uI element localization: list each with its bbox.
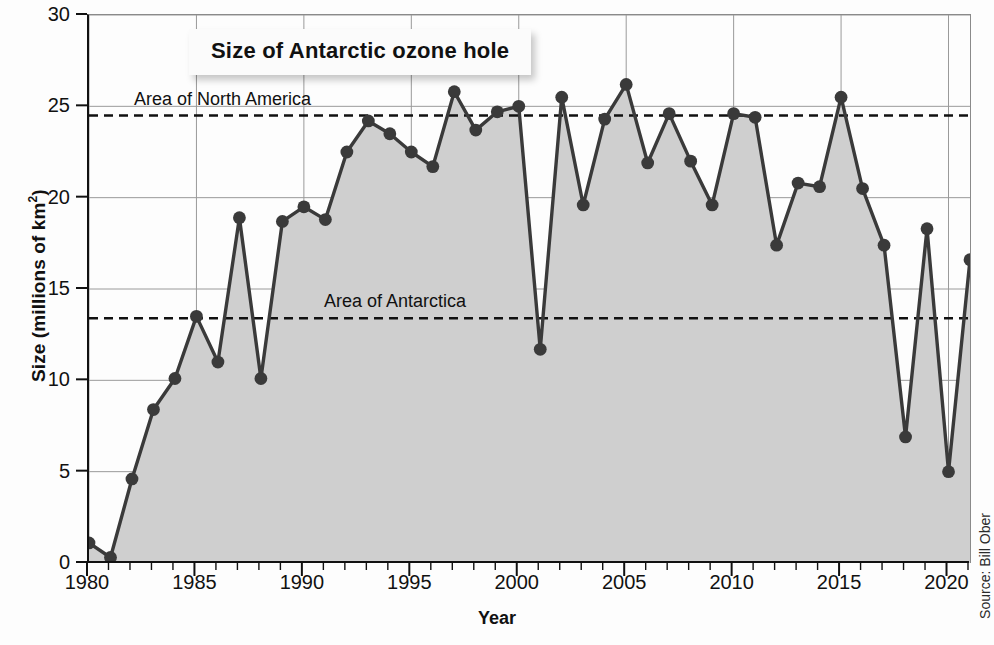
x-axis-tick-label: 1980: [52, 572, 122, 592]
data-point: [491, 105, 504, 118]
data-point: [297, 200, 310, 213]
data-point: [684, 155, 697, 168]
area-fill: [89, 84, 970, 563]
data-point: [663, 107, 676, 120]
y-axis-tick-label: 15: [24, 278, 70, 298]
data-point: [641, 157, 654, 170]
data-point: [835, 91, 848, 104]
chart-title: Size of Antarctic ozone hole: [189, 29, 531, 75]
data-point: [727, 107, 740, 120]
reference-line-label-north-america: Area of North America: [128, 89, 317, 110]
data-point: [147, 403, 160, 416]
data-point: [469, 124, 482, 137]
data-point: [921, 222, 934, 235]
y-axis-tick-label: 20: [24, 187, 70, 207]
source-credit: Source: Bill Ober: [977, 496, 993, 636]
data-point: [426, 160, 439, 173]
data-point: [169, 372, 182, 385]
data-point: [448, 85, 461, 98]
data-point: [964, 253, 970, 266]
data-point: [319, 213, 332, 226]
data-point: [126, 473, 139, 486]
x-axis-title: Year: [0, 608, 994, 629]
data-point: [813, 180, 826, 193]
data-point: [706, 199, 719, 212]
data-point: [749, 111, 762, 124]
y-axis-tick-label: 25: [24, 95, 70, 115]
reference-line-label-antarctica: Area of Antarctica: [318, 291, 472, 312]
data-point: [878, 239, 891, 252]
y-axis-tick-label: 0: [24, 552, 70, 572]
data-point: [620, 78, 633, 91]
data-point: [212, 356, 225, 369]
x-axis-tick-label: 2015: [804, 572, 874, 592]
data-point: [255, 372, 268, 385]
data-point: [233, 211, 246, 224]
data-point: [405, 146, 418, 159]
data-point: [577, 199, 590, 212]
x-axis-tick-label: 2000: [482, 572, 552, 592]
x-axis-tick-label: 2020: [912, 572, 982, 592]
data-point: [276, 215, 289, 228]
data-point: [598, 113, 611, 126]
chart-canvas: Size (millions of km2) 051015202530 1980…: [0, 0, 994, 645]
y-axis-tick-labels: 051015202530: [20, 0, 70, 600]
y-axis-tick-label: 5: [24, 461, 70, 481]
data-point: [340, 146, 353, 159]
data-point: [899, 431, 912, 444]
data-point: [770, 239, 783, 252]
data-point: [362, 115, 375, 128]
data-point: [512, 100, 525, 113]
data-point: [383, 127, 396, 140]
x-axis-tick-label: 2010: [697, 572, 767, 592]
x-axis-tick-label: 1990: [267, 572, 337, 592]
data-point: [856, 182, 869, 195]
y-axis-tick-label: 30: [24, 4, 70, 24]
data-point: [190, 310, 203, 323]
data-point: [555, 91, 568, 104]
data-point: [942, 465, 955, 478]
y-axis-tick-label: 10: [24, 369, 70, 389]
x-axis-tick-label: 1985: [159, 572, 229, 592]
data-point: [534, 343, 547, 356]
data-point: [792, 177, 805, 190]
x-axis-tick-label: 2005: [589, 572, 659, 592]
x-axis-tick-label: 1995: [374, 572, 444, 592]
